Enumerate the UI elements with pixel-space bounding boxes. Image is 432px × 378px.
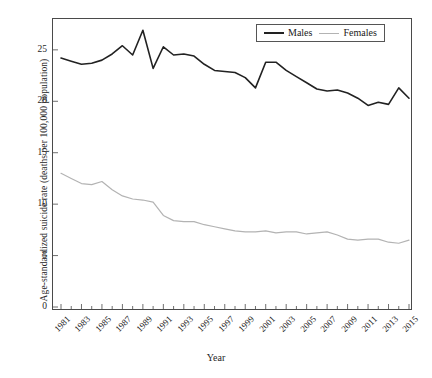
x-tick-label: 2015 bbox=[395, 314, 420, 339]
x-tick-label: 1981 bbox=[47, 314, 72, 339]
chart-figure: Age-standardized suicide rate (deaths pe… bbox=[0, 0, 432, 378]
x-tick-label: 2003 bbox=[272, 314, 297, 339]
chart-legend: Males Females bbox=[256, 24, 385, 42]
x-tick-label: 1983 bbox=[67, 314, 92, 339]
y-tick-label: 20 bbox=[25, 95, 47, 105]
x-tick-label: 2011 bbox=[354, 314, 379, 339]
y-tick-label: 25 bbox=[25, 44, 47, 54]
y-tick-label: 10 bbox=[25, 198, 47, 208]
x-tick-label: 1993 bbox=[169, 314, 194, 339]
legend-label-females: Females bbox=[343, 28, 376, 38]
legend-swatch-females-icon bbox=[319, 33, 339, 34]
x-tick-label: 1991 bbox=[149, 314, 174, 339]
legend-label-males: Males bbox=[288, 28, 312, 38]
y-tick-label: 0 bbox=[25, 301, 47, 311]
x-tick-label: 1999 bbox=[231, 314, 256, 339]
y-axis-title: Age-standardized suicide rate (deaths pe… bbox=[39, 30, 49, 330]
x-tick-label: 1985 bbox=[88, 314, 113, 339]
plot-area bbox=[52, 18, 412, 310]
x-tick-label: 1989 bbox=[128, 314, 153, 339]
x-tick-label: 1987 bbox=[108, 314, 133, 339]
legend-item-females: Females bbox=[319, 28, 376, 38]
x-tick-label: 2001 bbox=[251, 314, 276, 339]
x-tick-label: 1997 bbox=[210, 314, 235, 339]
x-tick-label: 2009 bbox=[333, 314, 358, 339]
x-tick-label: 1995 bbox=[190, 314, 215, 339]
x-axis-title: Year bbox=[0, 352, 432, 363]
y-tick-label: 15 bbox=[25, 147, 47, 157]
series-line-females bbox=[61, 173, 409, 243]
x-tick-label: 2007 bbox=[313, 314, 338, 339]
legend-item-males: Males bbox=[264, 28, 312, 38]
x-tick-label: 2005 bbox=[292, 314, 317, 339]
chart-canvas bbox=[53, 19, 411, 309]
x-tick-label: 2013 bbox=[374, 314, 399, 339]
y-tick-label: 5 bbox=[25, 250, 47, 260]
legend-swatch-males-icon bbox=[264, 32, 284, 34]
